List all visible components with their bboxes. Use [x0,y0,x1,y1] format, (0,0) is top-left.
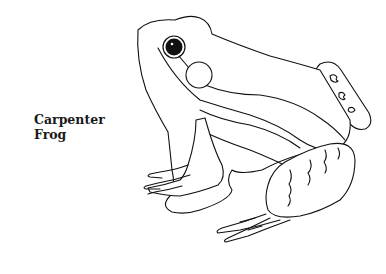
frog-tympanum [186,62,212,88]
frog-illustration [0,0,386,274]
frog-eye [166,39,183,56]
